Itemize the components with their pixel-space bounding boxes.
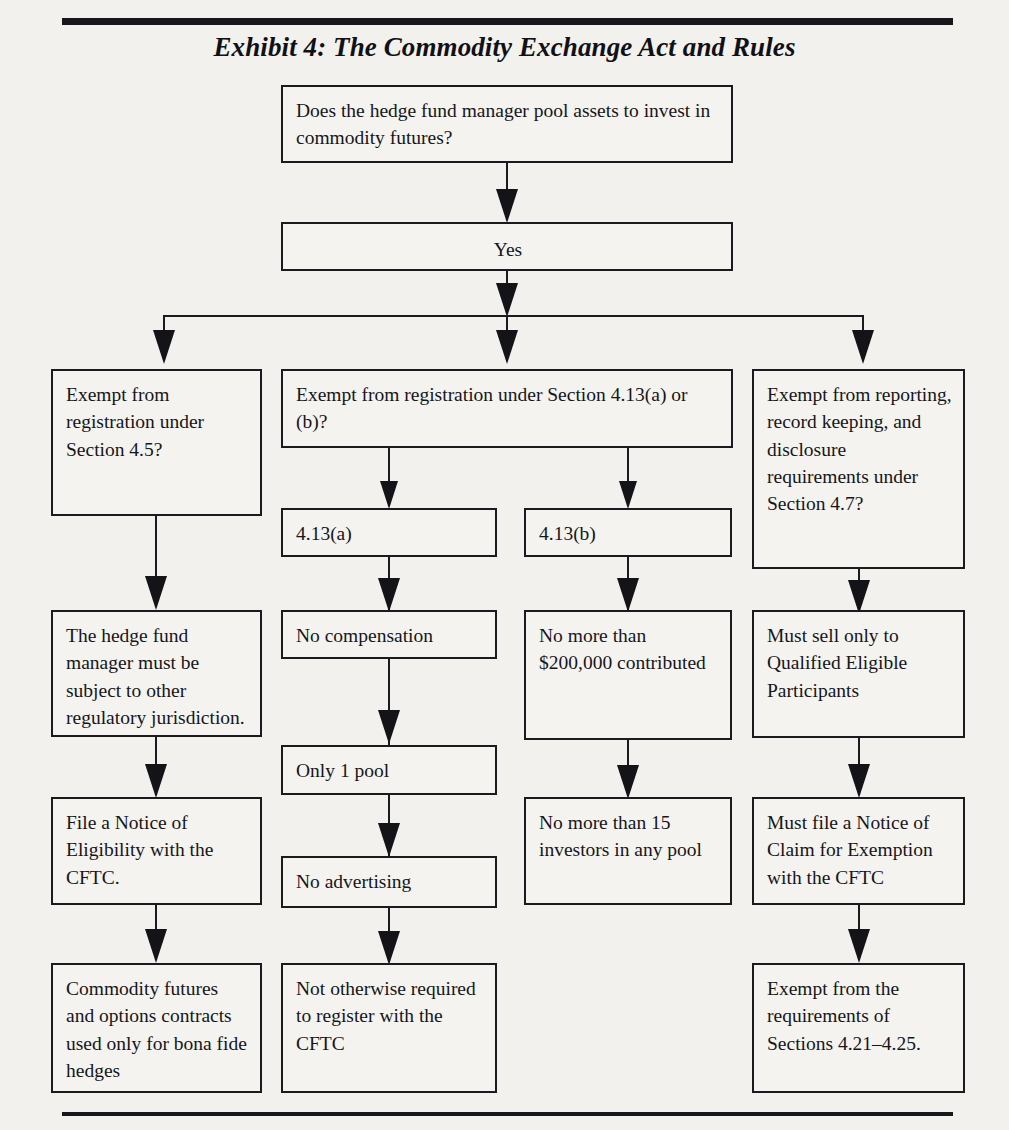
node-branch1-question-label: Exempt from registration under Section 4… — [66, 381, 249, 463]
node-col1-step2-label: File a Notice of Eligibility with the CF… — [66, 809, 249, 891]
node-413a-label: 4.13(a) — [296, 520, 484, 547]
arrow-c2-s1-s2 — [378, 710, 400, 744]
node-branch3-question-label: Exempt from reporting, record keeping, a… — [767, 381, 952, 517]
exhibit-page: Exhibit 4: The Commodity Exchange Act an… — [0, 0, 1009, 1130]
node-col2-step2-label: Only 1 pool — [296, 757, 484, 784]
node-col4-step1-label: Must sell only to Qualified Eligible Par… — [767, 622, 952, 704]
node-col1-step3: Commodity futures and options contracts … — [51, 963, 262, 1093]
arrow-yes-down — [496, 283, 518, 317]
node-413b-label: 4.13(b) — [539, 520, 719, 547]
arrow-c1-s2-s3 — [145, 929, 167, 963]
node-col2-step2: Only 1 pool — [281, 745, 497, 795]
node-col1-step2: File a Notice of Eligibility with the CF… — [51, 797, 262, 905]
node-col2-step3-label: No advertising — [296, 868, 484, 895]
node-col1-step3-label: Commodity futures and options contracts … — [66, 975, 249, 1084]
bottom-rule — [62, 1112, 953, 1116]
node-413a: 4.13(a) — [281, 508, 497, 557]
page-title: Exhibit 4: The Commodity Exchange Act an… — [0, 32, 1009, 63]
arrow-c4-s1-s2 — [848, 764, 870, 798]
node-col3-step1: No more than $200,000 contributed — [524, 610, 732, 740]
node-root-question-label: Does the hedge fund manager pool assets … — [296, 97, 720, 152]
node-root-answer-label: Yes — [296, 236, 720, 263]
node-col1-step1: The hedge fund manager must be subject t… — [51, 610, 262, 737]
arrow-c1-s0-s1 — [145, 576, 167, 610]
node-branch2-question-label: Exempt from registration under Section 4… — [296, 381, 720, 436]
arrow-to-413a — [380, 481, 398, 509]
node-413b: 4.13(b) — [524, 508, 732, 557]
node-col2-step1: No compensation — [281, 610, 497, 659]
node-root-answer: Yes — [281, 222, 733, 271]
node-col4-step1: Must sell only to Qualified Eligible Par… — [752, 610, 965, 738]
arrow-c1-s1-s2 — [145, 764, 167, 798]
node-col4-step3-label: Exempt from the requirements of Sections… — [767, 975, 952, 1057]
node-col2-step4: Not otherwise required to register with … — [281, 963, 497, 1093]
node-col2-step3: No advertising — [281, 856, 497, 908]
arrow-c3-s1-s2 — [617, 765, 639, 799]
arrow-to-branch3 — [852, 330, 874, 364]
node-col4-step2-label: Must file a Notice of Claim for Exemptio… — [767, 809, 952, 891]
node-col1-step1-label: The hedge fund manager must be subject t… — [66, 622, 249, 731]
node-col4-step2: Must file a Notice of Claim for Exemptio… — [752, 797, 965, 905]
arrow-to-branch1 — [153, 330, 175, 364]
arrow-c2-s2-s3 — [378, 823, 400, 857]
node-col3-step2-label: No more than 15 investors in any pool — [539, 809, 719, 864]
arrow-c4-s2-s3 — [848, 929, 870, 963]
node-branch1-question: Exempt from registration under Section 4… — [51, 369, 262, 516]
arrow-c3-s0-s1 — [617, 578, 639, 612]
arrow-c2-s3-s4 — [378, 931, 400, 965]
node-col4-step3: Exempt from the requirements of Sections… — [752, 963, 965, 1093]
arrow-c2-s0-s1 — [378, 578, 400, 612]
node-branch3-question: Exempt from reporting, record keeping, a… — [752, 369, 965, 569]
node-col3-step2: No more than 15 investors in any pool — [524, 797, 732, 905]
node-col2-step4-label: Not otherwise required to register with … — [296, 975, 484, 1057]
node-branch2-question: Exempt from registration under Section 4… — [281, 369, 733, 448]
arrow-root-to-yes — [496, 189, 518, 223]
connector-branch-bus — [163, 315, 864, 317]
arrow-to-branch2 — [496, 330, 518, 364]
arrow-to-413b — [619, 481, 637, 509]
node-root-question: Does the hedge fund manager pool assets … — [281, 85, 733, 163]
node-col3-step1-label: No more than $200,000 contributed — [539, 622, 719, 677]
top-rule — [62, 18, 953, 25]
arrow-c4-s0-s1 — [848, 580, 870, 614]
node-col2-step1-label: No compensation — [296, 622, 484, 649]
